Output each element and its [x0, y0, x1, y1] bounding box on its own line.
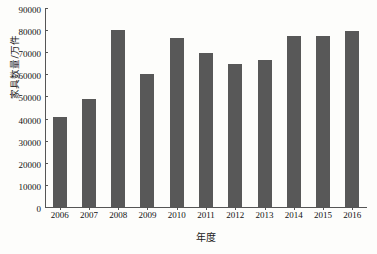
bar[interactable]	[287, 36, 301, 207]
y-axis-tick-label: 60000	[19, 71, 46, 81]
y-axis-tick-label: 90000	[19, 5, 46, 15]
bar-slot	[133, 8, 162, 207]
y-axis-tick-label: 70000	[19, 49, 46, 59]
x-axis-title: 年度	[45, 229, 367, 244]
bar[interactable]	[228, 64, 242, 207]
bar[interactable]	[199, 53, 213, 207]
x-axis-tick-label: 2012	[226, 210, 244, 220]
bar[interactable]	[316, 36, 330, 207]
bar-slot	[74, 8, 103, 207]
x-axis-tick-label: 2015	[314, 210, 332, 220]
bar-chart: 家具数量/万件 01000020000300004000050000600007…	[0, 0, 377, 254]
bar[interactable]	[258, 60, 272, 207]
bar-slot	[45, 8, 74, 207]
x-axis-tick-label: 2014	[285, 210, 303, 220]
bar-slot	[162, 8, 191, 207]
bar-slot	[221, 8, 250, 207]
y-axis-tick: 10000	[19, 176, 46, 194]
y-axis-tick: 30000	[19, 132, 46, 150]
y-axis-tick-label: 0	[37, 204, 46, 214]
y-axis-tick-label: 20000	[19, 160, 46, 170]
x-axis-tick-label: 2008	[109, 210, 127, 220]
bar[interactable]	[111, 30, 125, 207]
y-axis-tick-label: 40000	[19, 116, 46, 126]
bar-slot	[104, 8, 133, 207]
bar[interactable]	[345, 31, 359, 207]
y-axis-tick: 60000	[19, 65, 46, 83]
bar-slot	[191, 8, 220, 207]
bar-slot	[279, 8, 308, 207]
bar[interactable]	[140, 74, 154, 207]
x-axis-tick-label: 2007	[80, 210, 98, 220]
y-axis-tick: 70000	[19, 43, 46, 61]
y-axis-tick-label: 80000	[19, 27, 46, 37]
bar[interactable]	[170, 38, 184, 207]
y-axis-tick: 0	[37, 198, 46, 216]
y-axis-tick: 80000	[19, 21, 46, 39]
y-axis-tick: 40000	[19, 110, 46, 128]
y-axis-tick-label: 30000	[19, 138, 46, 148]
x-axis-tick-label: 2016	[343, 210, 361, 220]
bar-slot	[308, 8, 337, 207]
y-axis-tick: 20000	[19, 154, 46, 172]
bar-slot	[250, 8, 279, 207]
x-axis-tick-label: 2011	[197, 210, 215, 220]
x-axis-ticks: 2006200720082009201020112012201320142015…	[45, 210, 367, 224]
bar[interactable]	[53, 117, 67, 207]
y-axis-tick: 50000	[19, 87, 46, 105]
bar-slot	[338, 8, 367, 207]
x-axis-tick-label: 2009	[138, 210, 156, 220]
y-axis-tick-label: 50000	[19, 93, 46, 103]
y-axis-tick: 90000	[19, 0, 46, 17]
bar[interactable]	[82, 99, 96, 207]
bars-layer	[45, 8, 367, 207]
x-axis-tick-label: 2013	[256, 210, 274, 220]
x-axis-tick-label: 2010	[168, 210, 186, 220]
y-axis-tick-label: 10000	[19, 182, 46, 192]
x-axis-tick-label: 2006	[51, 210, 69, 220]
